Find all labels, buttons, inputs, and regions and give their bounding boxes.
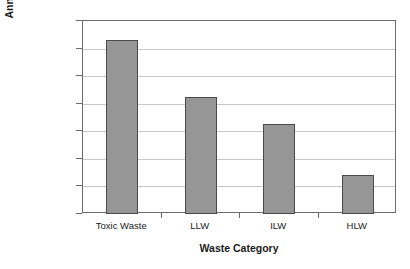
y-tick-mark xyxy=(76,213,82,214)
y-tick-mark xyxy=(76,130,82,131)
y-axis-title: Annual Arisings (cubic metres) xyxy=(0,0,18,39)
y-tick-mark xyxy=(76,75,82,76)
bar xyxy=(185,97,217,214)
x-axis-title: Waste Category xyxy=(82,241,396,255)
y-tick-mark xyxy=(76,158,82,159)
x-category-label: HLW xyxy=(318,219,397,233)
y-tick-mark xyxy=(76,48,82,49)
x-category-label: Toxic Waste xyxy=(82,219,161,233)
bar xyxy=(342,175,374,214)
y-tick-mark xyxy=(76,103,82,104)
bar xyxy=(106,40,138,214)
bar xyxy=(263,124,295,214)
x-tick-mark xyxy=(239,213,240,218)
y-tick-mark xyxy=(76,20,82,21)
x-category-label: ILW xyxy=(239,219,318,233)
x-category-label: LLW xyxy=(161,219,240,233)
plot-area xyxy=(82,20,396,213)
x-tick-mark xyxy=(161,213,162,218)
bar-chart: Annual Arisings (cubic metres) 10 000 00… xyxy=(0,0,410,269)
y-tick-mark xyxy=(76,185,82,186)
x-tick-mark xyxy=(318,213,319,218)
